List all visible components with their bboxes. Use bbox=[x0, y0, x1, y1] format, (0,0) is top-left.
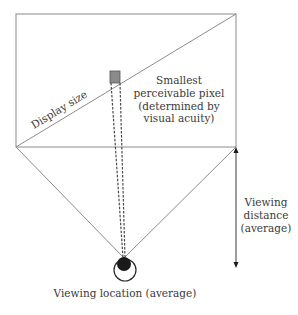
pixel-label-line4: visual acuity) bbox=[143, 112, 215, 124]
distance-label-line1: Viewing bbox=[244, 196, 288, 208]
viewing-distance-diagram: Display size Smallest perceivable pixel … bbox=[0, 0, 298, 315]
arrow-up-icon bbox=[234, 147, 239, 153]
display-diagonal bbox=[16, 14, 236, 147]
viewing-location-label: Viewing location (average) bbox=[53, 287, 197, 299]
view-cone-left bbox=[16, 147, 124, 258]
pixel-label-line3: (determined by bbox=[138, 100, 220, 112]
pixel-label-line1: Smallest bbox=[156, 74, 203, 86]
display-size-label: Display size bbox=[29, 88, 89, 131]
pixel-square bbox=[110, 71, 120, 83]
eye-pupil-icon bbox=[117, 257, 131, 271]
distance-label-line2: distance bbox=[244, 209, 289, 221]
distance-label-line3: (average) bbox=[241, 222, 292, 234]
view-cone-right bbox=[124, 147, 236, 258]
arrow-down-icon bbox=[234, 262, 239, 268]
pixel-label-line2: perceivable pixel bbox=[134, 87, 225, 99]
